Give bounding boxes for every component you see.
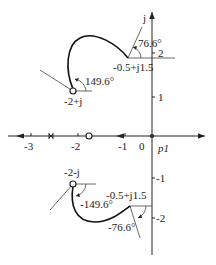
pole-label: -2-j: [64, 166, 80, 178]
real-tick-label: -1: [118, 140, 127, 152]
real-axis: -3 -2 -1 0 p1: [8, 133, 205, 154]
real-tick-label: -2: [71, 140, 80, 152]
real-tick-label: 0: [139, 140, 145, 152]
root-locus-diagram: -3 -2 -1 0 p1 j 2 1 -1 -2 149.6°: [0, 0, 216, 265]
real-axis-label: p1: [157, 142, 169, 154]
imag-tick-label: -2: [156, 212, 165, 224]
upper-branch: 149.6° -2+j 76.6° -0.5+j1.5: [40, 27, 175, 107]
left-arrow-icon: [16, 134, 24, 139]
imag-axis-label: j: [142, 12, 146, 24]
lower-branch: -2-j -149.6° -0.5+j1.5 -76.6°: [50, 166, 152, 238]
angle-arc-icon: [138, 206, 146, 218]
pole-circle-icon: [70, 88, 76, 94]
angle-label: 76.6°: [138, 37, 162, 49]
pole-circle-icon: [70, 181, 76, 187]
real-tick-label: -3: [24, 140, 34, 152]
angle-label: 149.6°: [85, 75, 114, 87]
angle-label: -76.6°: [108, 221, 135, 233]
imag-tick-label: 1: [158, 91, 164, 103]
imag-tick-label: -1: [156, 172, 165, 184]
pole-label: -0.5+j1.5: [106, 189, 147, 201]
left-arrow-icon: [116, 134, 124, 139]
pole-label: -0.5+j1.5: [113, 61, 154, 73]
angle-arc-icon: [76, 184, 86, 196]
zero-circle-icon: [86, 133, 92, 139]
pole-label: -2+j: [64, 95, 82, 107]
